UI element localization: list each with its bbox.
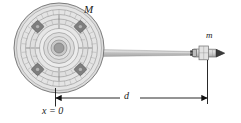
physics-figure-station-spacecraft: M m d x = 0 — [0, 0, 241, 123]
distance-label: d — [122, 91, 131, 101]
spacecraft-mass-label: m — [206, 31, 213, 40]
station-core — [54, 43, 64, 53]
space-station — [14, 3, 104, 93]
station-mass-label: M — [84, 4, 93, 15]
spacecraft-nose — [216, 49, 225, 57]
origin-label: x = 0 — [42, 106, 63, 116]
spacecraft — [190, 46, 224, 60]
figure-canvas — [0, 0, 241, 123]
spacecraft-engine — [193, 49, 197, 56]
docking-beam — [100, 50, 196, 57]
